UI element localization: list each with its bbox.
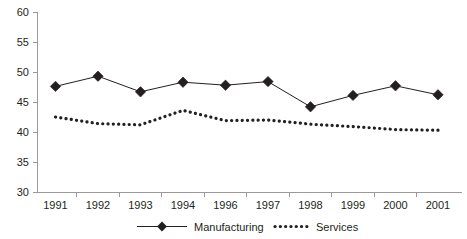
series-line-services bbox=[56, 110, 439, 130]
y-tick-label: 55 bbox=[17, 36, 29, 48]
chart-canvas: 60 55 50 45 40 35 30 1991 1992 1993 1994 bbox=[0, 0, 467, 239]
data-point-marker bbox=[433, 90, 443, 100]
data-point-marker bbox=[348, 90, 358, 100]
data-point-marker bbox=[135, 87, 145, 97]
data-point-marker bbox=[390, 81, 400, 91]
data-point-marker bbox=[50, 81, 60, 91]
x-tick-label-1998: 1998 bbox=[298, 199, 322, 211]
x-axis-tick-labels: 1991 1992 1993 1994 1996 1997 1998 1999 … bbox=[43, 199, 450, 211]
x-tick-label-1993: 1993 bbox=[128, 199, 152, 211]
legend-label-manufacturing: Manufacturing bbox=[194, 221, 264, 233]
chart-legend: Manufacturing Services bbox=[137, 221, 359, 233]
data-point-marker bbox=[305, 102, 315, 112]
series-line-manufacturing bbox=[56, 76, 439, 107]
y-tick-label: 50 bbox=[17, 66, 29, 78]
line-chart: 60 55 50 45 40 35 30 1991 1992 1993 1994 bbox=[0, 0, 467, 239]
y-tick-label: 45 bbox=[17, 96, 29, 108]
y-tick-label: 60 bbox=[17, 6, 29, 18]
x-tick-marks bbox=[77, 193, 417, 198]
legend-label-services: Services bbox=[316, 221, 359, 233]
x-tick-label-1999: 1999 bbox=[341, 199, 365, 211]
plot-area bbox=[50, 71, 443, 130]
legend-swatch-manufacturing-marker bbox=[157, 222, 166, 231]
data-point-marker bbox=[178, 77, 188, 87]
x-tick-label-1994: 1994 bbox=[171, 199, 195, 211]
x-tick-label-2000: 2000 bbox=[383, 199, 407, 211]
x-tick-label-1991: 1991 bbox=[43, 199, 67, 211]
x-tick-label-1996: 1996 bbox=[213, 199, 237, 211]
x-tick-label-2001: 2001 bbox=[426, 199, 450, 211]
y-tick-label: 35 bbox=[17, 156, 29, 168]
data-point-marker bbox=[93, 71, 103, 81]
y-axis-tick-labels: 60 55 50 45 40 35 30 bbox=[17, 6, 29, 198]
data-point-marker bbox=[263, 76, 273, 86]
x-tick-label-1992: 1992 bbox=[86, 199, 110, 211]
y-tick-label: 40 bbox=[17, 126, 29, 138]
data-point-marker bbox=[220, 80, 230, 90]
y-tick-label: 30 bbox=[17, 186, 29, 198]
y-tick-marks bbox=[33, 13, 38, 193]
x-tick-label-1997: 1997 bbox=[256, 199, 280, 211]
